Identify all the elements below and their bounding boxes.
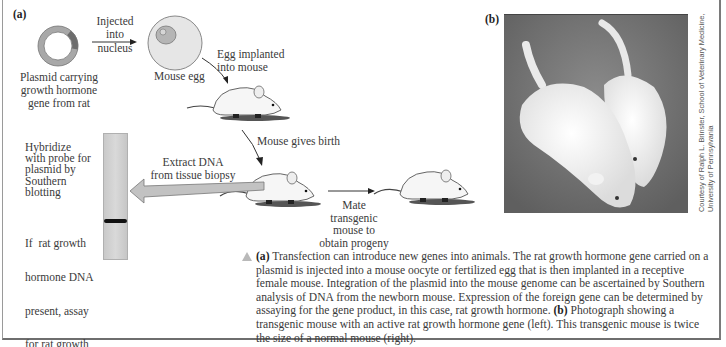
photo-credit-line: Courtesy of Ralph L. Brinster, School of…: [697, 14, 706, 212]
egg-implanted-line: Egg implanted: [217, 48, 284, 61]
mouse-illustration-icon: [185, 84, 290, 124]
assay-line: If rat growth: [25, 238, 94, 249]
gel-band: [104, 219, 127, 223]
hybridize-line: blotting: [25, 187, 91, 198]
panel-b-label: (b): [485, 13, 499, 25]
caption-triangle-icon: [242, 252, 252, 261]
photo-credit: Courtesy of Ralph L. Brinster, School of…: [695, 14, 721, 214]
panel-a-label: (a): [13, 8, 26, 20]
mate-label-line: transgenic: [314, 212, 394, 225]
caption-a-tag: (a): [256, 250, 270, 263]
caption-b-tag: (b): [554, 304, 568, 317]
plasmid-caption-line: gene from rat: [14, 97, 104, 110]
assay-line: present, assay: [25, 306, 94, 317]
arrow-right-icon: [328, 187, 376, 195]
injected-label-line: Injected: [90, 15, 140, 28]
mouse-egg-label: Mouse egg: [154, 70, 205, 83]
egg-implanted-line: into mouse: [217, 61, 284, 74]
hybridize-line: plasmid by: [25, 164, 91, 175]
plasmid-caption-line: growth hormone: [14, 84, 104, 97]
extract-dna-line: Extract DNA: [148, 156, 238, 169]
photo-credit-line: University of Pennsylvania: [706, 14, 715, 212]
hybridize-label: Hybridize with probe for plasmid by Sout…: [25, 142, 91, 198]
assay-line: for rat growth: [25, 339, 94, 347]
plasmid-icon: [36, 24, 80, 68]
assay-label: If rat growth hormone DNA present, assay…: [25, 216, 94, 347]
egg-implanted-label: Egg implanted into mouse: [217, 48, 284, 74]
extract-dna-label: Extract DNA from tissue biopsy: [148, 156, 238, 182]
figure-caption: (a) Transfection can introduce new genes…: [256, 250, 716, 345]
mice-photo-illustration: [504, 15, 688, 213]
mate-label-line: mouse to: [314, 224, 394, 237]
extract-dna-line: from tissue biopsy: [148, 169, 238, 182]
mate-label-line: obtain progeny: [314, 237, 394, 250]
gives-birth-label: Mouse gives birth: [257, 135, 340, 148]
photo-credit-text: Courtesy of Ralph L. Brinster, School of…: [697, 14, 715, 212]
injected-label: nucleus: [90, 42, 140, 55]
plasmid-caption: Plasmid carrying growth hormone gene fro…: [14, 71, 104, 110]
assay-line: hormone DNA: [25, 272, 94, 283]
mice-photograph: [504, 14, 688, 213]
plasmid-caption-line: Plasmid carrying: [14, 71, 104, 84]
arrow-curved-icon: [240, 128, 270, 168]
mouse-egg-icon: [146, 14, 204, 72]
mouse-illustration-icon: [372, 168, 477, 208]
southern-blot-gel: [103, 133, 128, 260]
